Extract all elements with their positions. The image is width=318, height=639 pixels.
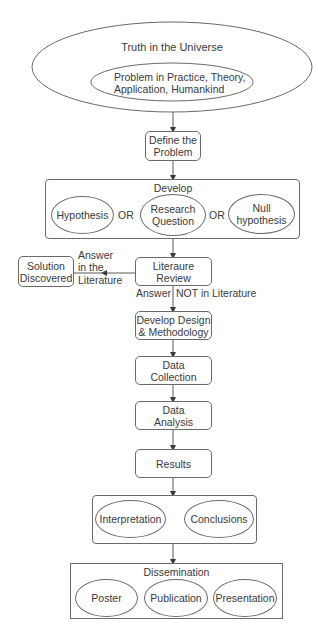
conclusions-label: Conclusions [190, 513, 247, 525]
collection-line1: Data [162, 359, 184, 371]
poster-label: Poster [91, 592, 121, 604]
research-line1: Research [151, 203, 196, 215]
interpretation-ellipse: Interpretation [95, 500, 166, 538]
research-line2: Question [152, 215, 194, 227]
develop-title: Develop [145, 182, 201, 194]
interpretation-label: Interpretation [100, 513, 162, 525]
answer-not-left: Answer [136, 287, 171, 299]
problem-line1: Problem in Practice, Theory, [114, 71, 246, 83]
results-box: Results [135, 449, 212, 478]
presentation-ellipse: Presentation [213, 579, 277, 617]
null-hypothesis-ellipse: Null hypothesis [228, 194, 295, 234]
research-question-ellipse: Research Question [140, 194, 206, 236]
or-label-1: OR [118, 209, 134, 221]
hypothesis-label: Hypothesis [57, 209, 109, 221]
answer-in-line3: Literature [78, 274, 122, 286]
data-collection-box: Data Collection [135, 356, 212, 385]
conclusions-ellipse: Conclusions [184, 500, 254, 538]
presentation-label: Presentation [216, 592, 275, 604]
publication-ellipse: Publication [144, 579, 208, 617]
solution-line1: Solution [27, 260, 65, 272]
solution-discovered-box: Solution Discovered [18, 256, 74, 287]
analysis-line1: Data [162, 404, 184, 416]
solution-line2: Discovered [20, 272, 73, 284]
define-line1: Define the [149, 134, 197, 146]
results-label: Results [156, 458, 191, 470]
null-line2: hypothesis [236, 214, 286, 226]
design-line2: & Methodology [138, 326, 208, 338]
answer-in-line2: in the [78, 261, 104, 273]
literature-review-box: Literaure Review [135, 257, 212, 286]
define-line2: Problem [153, 146, 192, 158]
poster-ellipse: Poster [75, 579, 138, 617]
analysis-line2: Analysis [154, 416, 193, 428]
universe-title: Truth in the Universe [72, 41, 272, 53]
define-problem-box: Define the Problem [145, 131, 201, 161]
collection-line2: Collection [150, 371, 196, 383]
or-label-2: OR [209, 209, 225, 221]
design-line1: Develop Design [136, 314, 210, 326]
data-analysis-box: Data Analysis [135, 401, 212, 430]
answer-in-line1: Answer [78, 249, 113, 261]
literature-line1: Literaure [153, 260, 194, 272]
problem-line2: Application, Humankind [114, 83, 224, 95]
literature-line2: Review [156, 272, 190, 284]
dissemination-title: Dissemination [120, 566, 233, 578]
null-line1: Null [252, 202, 270, 214]
publication-label: Publication [150, 592, 201, 604]
answer-not-right: NOT in Literature [176, 287, 256, 299]
hypothesis-ellipse: Hypothesis [51, 196, 114, 234]
design-methodology-box: Develop Design & Methodology [135, 311, 212, 340]
